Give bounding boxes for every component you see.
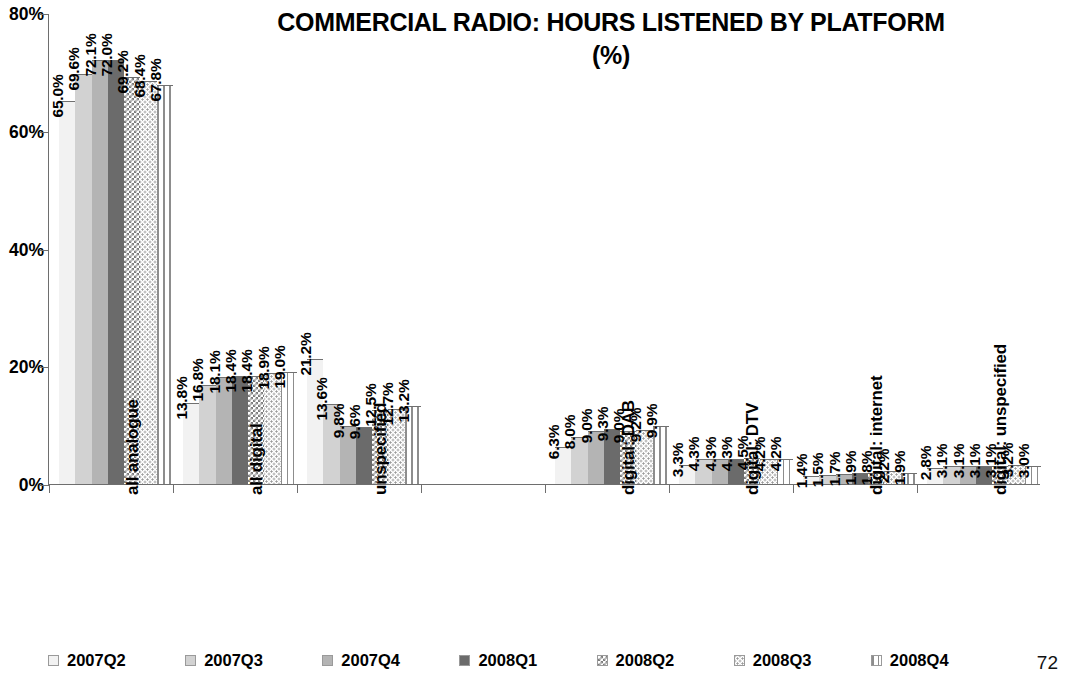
bar-value-label: 69.6%: [65, 48, 83, 91]
x-axis-tick: [49, 484, 50, 493]
x-axis-category-label: unspecified: [371, 403, 391, 495]
bar-fill: [92, 60, 108, 484]
y-axis-labels: 0%20%40%60%80%: [0, 14, 44, 485]
bar-value-label: 1.7%: [826, 452, 844, 487]
legend-item[interactable]: 2007Q2: [48, 651, 185, 670]
legend-label: 2008Q2: [616, 651, 675, 670]
bar-group: 2.8%3.1%3.1%3.1%3.1%3.2%3.0%: [927, 13, 1041, 484]
bar-value-label: 18.4%: [238, 349, 256, 392]
bar-group: 13.8%16.8%18.1%18.4%18.4%18.9%19.0%: [183, 13, 297, 484]
y-axis-tick: [40, 250, 49, 251]
x-axis-category-label: all digital: [247, 424, 267, 495]
y-axis-tick: [40, 367, 49, 368]
bar-group-bars: 13.8%16.8%18.1%18.4%18.4%18.9%19.0%: [183, 13, 297, 484]
x-axis-tick: [173, 484, 174, 493]
legend-label: 2007Q3: [204, 651, 263, 670]
bar-fill: [281, 372, 297, 484]
legend-item[interactable]: 2008Q3: [734, 651, 871, 670]
y-axis-tick-label: 20%: [0, 357, 44, 378]
bar-group: 3.3%4.3%4.3%4.3%4.5%4.2%4.2%: [679, 13, 793, 484]
bar-group-bars: 21.2%13.6%9.8%9.6%12.5%12.7%13.2%: [307, 13, 421, 484]
y-axis-tick: [40, 132, 49, 133]
y-axis-tick-label: 40%: [0, 239, 44, 260]
bar-value-label: 18.9%: [255, 346, 273, 389]
slide-page: COMMERCIAL RADIO: HOURS LISTENED BY PLAT…: [0, 0, 1072, 680]
bar-value-label: 9.9%: [643, 403, 661, 438]
y-axis-tick-label: 0%: [0, 475, 44, 496]
bar-group: 21.2%13.6%9.8%9.6%12.5%12.7%13.2%: [307, 13, 421, 484]
bar-value-label: 4.3%: [702, 436, 720, 471]
chart-legend: 2007Q22007Q32007Q42008Q12008Q22008Q32008…: [48, 645, 1008, 675]
bar-group-bars: [431, 13, 545, 484]
legend-swatch-icon: [597, 655, 608, 666]
bar-value-label: 69.2%: [114, 50, 132, 93]
bar-value-label: 9.0%: [578, 409, 596, 444]
legend-item[interactable]: 2007Q4: [322, 651, 459, 670]
legend-item[interactable]: 2008Q4: [871, 651, 1008, 670]
y-axis-tick-label: 80%: [0, 4, 44, 25]
bar-value-label: 8.0%: [561, 415, 579, 450]
bar-value-label: 72.1%: [82, 33, 100, 76]
legend-item[interactable]: 2008Q2: [597, 651, 734, 670]
bar-group-bars: 2.8%3.1%3.1%3.1%3.1%3.2%3.0%: [927, 13, 1041, 484]
page-number: 72: [1037, 652, 1058, 674]
bar-value-label: 13.2%: [395, 380, 413, 423]
bar-value-label: 13.6%: [313, 377, 331, 420]
bar-group-bars: 1.4%1.5%1.7%1.9%1.8%2.2%1.9%: [803, 13, 917, 484]
y-axis-tick-label: 60%: [0, 121, 44, 142]
x-axis-tick: [421, 484, 422, 493]
bar-value-label: 1.9%: [891, 451, 909, 486]
legend-label: 2008Q4: [890, 651, 949, 670]
legend-swatch-icon: [48, 655, 59, 666]
bar-value-label: 21.2%: [297, 333, 315, 376]
legend-swatch-icon: [871, 655, 882, 666]
legend-label: 2007Q4: [341, 651, 400, 670]
bar-fill: [108, 60, 124, 484]
y-axis-tick: [40, 485, 49, 486]
bar-value-label: 1.5%: [809, 453, 827, 488]
x-axis-tick: [297, 484, 298, 493]
legend-item[interactable]: 2008Q1: [459, 651, 596, 670]
bar-value-label: 9.8%: [330, 404, 348, 439]
x-axis-category-label: digital: internet: [867, 376, 887, 495]
x-axis-category-label: digital: DAB: [619, 400, 639, 495]
x-axis-tick: [545, 484, 546, 493]
bar-group: 65.0%69.6%72.1%72.0%69.2%68.4%67.8%: [59, 13, 173, 484]
bar-group-bars: 3.3%4.3%4.3%4.3%4.5%4.2%4.2%: [679, 13, 793, 484]
bar-group: [431, 13, 545, 484]
x-axis-tick: [917, 484, 918, 493]
bar-value-label: 68.4%: [131, 55, 149, 98]
bar-value-label: 3.1%: [933, 443, 951, 478]
legend-swatch-icon: [459, 655, 470, 666]
y-axis-tick: [40, 14, 49, 15]
legend-label: 2008Q1: [478, 651, 537, 670]
bar-value-label: 4.3%: [685, 436, 703, 471]
x-axis-category-label: all analogue: [123, 399, 143, 495]
legend-swatch-icon: [322, 655, 333, 666]
bar-fill: [75, 74, 91, 484]
x-axis-tick: [669, 484, 670, 493]
bar-value-label: 16.8%: [189, 359, 207, 402]
bar-fill: [59, 101, 75, 484]
x-axis-category-label: digital: unspecified: [991, 344, 1011, 495]
bar-value-label: 18.1%: [206, 351, 224, 394]
plot-area: 65.0%69.6%72.1%72.0%69.2%68.4%67.8%13.8%…: [48, 14, 1040, 485]
legend-label: 2008Q3: [753, 651, 812, 670]
bar-group: 6.3%8.0%9.0%9.3%9.0%9.2%9.9%: [555, 13, 669, 484]
bar-group: 1.4%1.5%1.7%1.9%1.8%2.2%1.9%: [803, 13, 917, 484]
legend-item[interactable]: 2007Q3: [185, 651, 322, 670]
bar-value-label: 3.0%: [1015, 444, 1033, 479]
legend-swatch-icon: [734, 655, 745, 666]
legend-swatch-icon: [185, 655, 196, 666]
bar-value-label: 4.2%: [767, 437, 785, 472]
bar-group-bars: 6.3%8.0%9.0%9.3%9.0%9.2%9.9%: [555, 13, 669, 484]
legend-label: 2007Q2: [67, 651, 126, 670]
bar-group-bars: 65.0%69.6%72.1%72.0%69.2%68.4%67.8%: [59, 13, 173, 484]
bar-value-label: 19.0%: [271, 346, 289, 389]
x-axis-category-label: digital: DTV: [743, 403, 763, 495]
bar-value-label: 3.1%: [950, 443, 968, 478]
bar-value-label: 67.8%: [147, 58, 165, 101]
bar-fill: [157, 85, 173, 484]
